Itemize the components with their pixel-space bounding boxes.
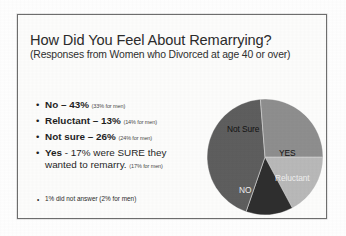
bullet-label: Reluctant (45, 115, 90, 126)
bullet-dot: • (36, 99, 39, 111)
page-subtitle: (Responses from Women who Divorced at ag… (30, 49, 322, 61)
pie-slice-label-no: NO (239, 185, 251, 195)
bullet-label: No (45, 99, 58, 110)
bullet-men-note: (14% for men) (123, 119, 157, 125)
bullet-men-note: (33% for men) (92, 103, 126, 109)
list-item: • Reluctant – 13% (14% for men) (36, 115, 200, 127)
bullet-label: Yes (45, 147, 62, 158)
footnote-item: • 1% did not answer (2% for men) (37, 195, 215, 203)
pie-slice-label-reluctant: Reluctant (275, 173, 309, 183)
bullet-list: • No – 43% (33% for men) • Reluctant – 1… (36, 99, 200, 175)
bullet-separator: - (62, 147, 71, 158)
pie-chart: Not Sure YES Reluctant NO (203, 97, 327, 215)
slide-frame: How Did You Feel About Remarrying? (Resp… (17, 14, 327, 219)
slide-heading: How Did You Feel About Remarrying? (Resp… (30, 32, 322, 61)
bullet-separator: – (85, 131, 96, 142)
bullet-separator: – (90, 115, 101, 126)
bullet-value: 13% (101, 115, 121, 126)
bullet-value: 43% (69, 99, 89, 110)
footnote-text: 1% did not answer (2% for men) (45, 195, 136, 202)
bullet-dot: • (37, 196, 39, 204)
scanned-page-background: How Did You Feel About Remarrying? (Resp… (0, 0, 346, 236)
pie-slice-label-yes: YES (279, 148, 295, 158)
bullet-dot: • (36, 115, 39, 127)
bullet-dot: • (36, 147, 39, 159)
list-item: • Not sure – 26% (24% for men) (36, 131, 200, 143)
list-item: • No – 43% (33% for men) (36, 99, 200, 111)
pie-chart-svg (207, 99, 323, 215)
page-title: How Did You Feel About Remarrying? (30, 32, 322, 48)
bullet-dot: • (36, 131, 39, 143)
pie-chart-circle (207, 99, 323, 215)
bullet-label: Not sure (45, 131, 85, 142)
bullet-value: 26% (96, 131, 116, 142)
bullet-men-note: (24% for men) (118, 135, 152, 141)
bullet-men-note: (17% for men) (129, 163, 163, 169)
bullet-separator: – (58, 99, 69, 110)
list-item: • Yes - 17% were SURE they wanted to rem… (36, 147, 200, 172)
pie-slice-label-not-sure: Not Sure (227, 124, 259, 134)
